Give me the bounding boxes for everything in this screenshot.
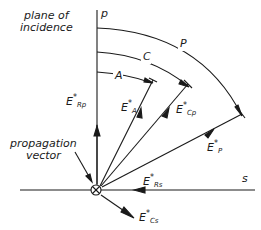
label-e-a: E*A (121, 98, 137, 117)
arc-a-label: A (115, 70, 123, 82)
vector-e-cp (101, 84, 188, 186)
p-axis-label: p (101, 8, 108, 20)
label-e-p: E*P (207, 138, 222, 157)
arc-c-label: C (143, 51, 151, 63)
label-e-rp: E*Rp (66, 92, 86, 111)
arc-p-label: P (180, 38, 187, 50)
s-axis-label: s (242, 173, 248, 185)
propagation-vector-label: propagation vector (10, 138, 77, 162)
polarization-diagram: plane of incidence p s A C P propagation… (0, 0, 261, 230)
label-e-rs: E*Rs (143, 172, 162, 191)
plane-of-incidence-label: plane of incidence (20, 10, 73, 34)
vector-e-a (100, 80, 153, 186)
propagation-line-2: vector (10, 150, 77, 162)
title-line-2: incidence (20, 22, 73, 34)
label-e-cs: E*Cs (139, 208, 159, 227)
label-e-cp: E*Cp (176, 100, 196, 119)
